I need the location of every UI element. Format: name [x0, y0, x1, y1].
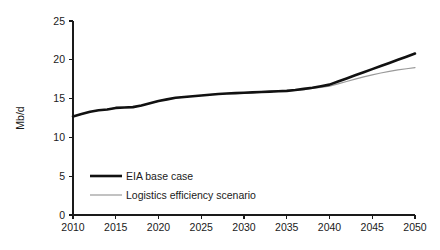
chart-legend: EIA base caseLogistics efficiency scenar… [90, 170, 256, 201]
y-axis-tick-labels: 0510152025 [53, 15, 65, 221]
y-axis-ticks [69, 21, 73, 215]
y-tick-label: 10 [53, 131, 65, 143]
x-axis-tick-labels: 201020152020202520302035204020452050 [61, 221, 427, 233]
line-chart: 0510152025 20102015202020252030203520402… [0, 0, 440, 250]
plot-area: 0510152025 20102015202020252030203520402… [14, 15, 427, 233]
x-tick-label: 2035 [275, 221, 299, 233]
y-tick-label: 20 [53, 53, 65, 65]
x-tick-label: 2020 [147, 221, 171, 233]
x-tick-label: 2025 [190, 221, 214, 233]
y-tick-label: 15 [53, 92, 65, 104]
y-tick-label: 25 [53, 15, 65, 27]
x-tick-label: 2015 [104, 221, 128, 233]
legend-label: Logistics efficiency scenario [126, 189, 256, 201]
legend-label: EIA base case [126, 170, 193, 182]
x-tick-label: 2010 [61, 221, 85, 233]
chart-container: 0510152025 20102015202020252030203520402… [0, 0, 440, 250]
x-tick-label: 2050 [403, 221, 427, 233]
series-lines [73, 54, 415, 117]
y-tick-label: 5 [59, 170, 65, 182]
x-tick-label: 2030 [232, 221, 256, 233]
x-tick-label: 2040 [318, 221, 342, 233]
x-axis-ticks [73, 215, 415, 219]
series-line [73, 54, 415, 117]
y-tick-label: 0 [59, 209, 65, 221]
x-tick-label: 2045 [361, 221, 385, 233]
y-axis-title: Mb/d [14, 106, 26, 130]
